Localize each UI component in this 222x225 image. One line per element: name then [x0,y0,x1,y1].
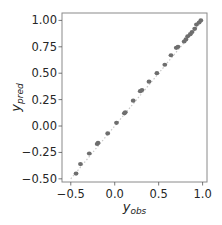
y-tick-label: −0.25 [22,145,57,159]
y-tick-label: 0.00 [31,119,57,133]
data-point [176,45,181,49]
data-point [74,171,79,175]
y-tick-label: 1.00 [31,13,57,27]
data-point [169,53,174,57]
y-tick-label: 0.75 [31,40,57,54]
data-point [192,27,197,31]
data-point [105,131,110,135]
y-axis-label-subscript: pred [15,83,25,105]
y-tick-label: −0.50 [22,172,57,186]
x-tick-label: 0.0 [106,187,124,201]
data-point [114,121,119,125]
data-point [78,162,83,166]
data-point [87,151,92,155]
y-tick-label: 0.25 [31,93,57,107]
data-point [140,88,145,92]
scatter-chart: −0.50.00.51.0 −0.50−0.250.000.250.500.75… [0,0,222,225]
x-axis-label-main: y [122,199,131,214]
x-tick-label: 0.5 [150,187,168,201]
data-point [198,18,203,22]
y-tick-label: 0.50 [31,66,57,80]
x-axis-ticks: −0.50.00.51.0 [57,182,212,201]
x-tick-label: 1.0 [193,187,211,201]
y-axis-label-main: y [8,104,23,113]
y-axis-label: ypred [8,83,25,113]
data-point [96,141,101,145]
data-point [123,110,128,114]
y-axis-ticks: −0.50−0.250.000.250.500.751.00 [22,13,62,185]
x-axis-label-subscript: obs [130,206,146,216]
data-point [147,80,152,84]
x-axis-label: yobs [122,199,147,216]
data-point [131,99,136,103]
x-tick-label: −0.5 [57,187,85,201]
data-point [162,63,167,67]
data-point [155,71,160,75]
